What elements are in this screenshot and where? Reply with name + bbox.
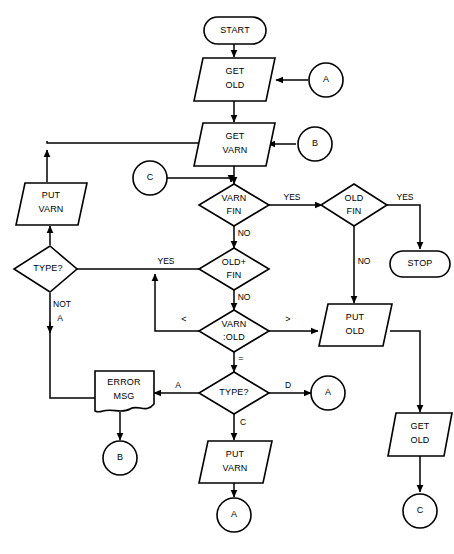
edge-label-old-plus-fin-yes: YES (157, 256, 174, 266)
edge-label-old-plus-fin-no: NO (238, 292, 251, 302)
flowchart-svg: START GET OLD A GET VARN B C (0, 0, 454, 554)
node-type-left-label: TYPE? (33, 263, 63, 273)
node-put-varn-bottom-label-2: VARN (222, 463, 247, 473)
node-error-msg-label-2: MSG (113, 391, 134, 401)
node-connector-b-bottom-label: B (117, 452, 123, 462)
node-put-varn-bottom[interactable]: PUT VARN (199, 441, 272, 483)
node-connector-a-top[interactable]: A (309, 63, 343, 97)
node-put-old[interactable]: PUT OLD (319, 304, 392, 346)
node-get-old-2-label-1: GET (410, 421, 429, 431)
node-old-plus-fin-label-1: OLD+ (222, 257, 247, 267)
edge-label-varn-old-equal: = (238, 353, 243, 363)
node-put-old-label-1: PUT (346, 312, 365, 322)
node-connector-b-right[interactable]: B (298, 127, 332, 161)
node-old-plus-fin[interactable]: OLD+ FIN (199, 248, 269, 290)
edge-label-varn-fin-no: NO (238, 228, 251, 238)
node-get-old-1[interactable]: GET OLD (194, 58, 275, 101)
node-put-varn-bottom-label-1: PUT (226, 449, 245, 459)
node-stop-label: STOP (407, 258, 432, 268)
edge-label-varn-fin-yes: YES (283, 192, 300, 202)
node-get-old-2[interactable]: GET OLD (388, 413, 452, 456)
node-connector-c-left[interactable]: C (133, 161, 167, 195)
node-connector-c-bottom-label: C (417, 505, 424, 515)
node-type-left[interactable]: TYPE? (14, 246, 77, 292)
node-get-old-1-label-2: OLD (225, 80, 244, 90)
edge-label-not-a-line2: A (57, 313, 63, 323)
node-connector-c-bottom[interactable]: C (403, 494, 437, 528)
node-old-fin[interactable]: OLD FIN (321, 184, 387, 226)
edge-old-fin-yes-to-stop (386, 205, 420, 249)
node-varn-old-label-2: :OLD (223, 332, 245, 342)
node-varn-fin-label-1: VARN (221, 193, 246, 203)
node-connector-b-right-label: B (312, 138, 318, 148)
node-connector-a-bottom[interactable]: A (217, 498, 251, 532)
node-error-msg-label-1: ERROR (107, 377, 141, 387)
node-connector-c-left-label: C (147, 172, 154, 182)
node-connector-a-right[interactable]: A (311, 376, 345, 410)
edge-label-type-bottom-d: D (285, 380, 291, 390)
node-start[interactable]: START (204, 17, 266, 44)
node-varn-fin-label-2: FIN (226, 206, 241, 216)
node-old-fin-label-1: OLD (344, 193, 363, 203)
edge-conn-c-to-varn-fin (166, 178, 231, 182)
node-put-varn-left[interactable]: PUT VARN (16, 183, 87, 225)
flowchart-canvas: START GET OLD A GET VARN B C (0, 0, 454, 554)
node-start-label: START (220, 25, 250, 35)
node-old-plus-fin-label-2: FIN (226, 270, 241, 280)
edge-label-type-bottom-a: A (175, 380, 181, 390)
edge-label-old-fin-no: NO (358, 256, 371, 266)
node-put-varn-left-label-2: VARN (38, 204, 63, 214)
edge-label-not-a-line1: NOT (53, 299, 71, 309)
node-varn-fin[interactable]: VARN FIN (199, 184, 269, 226)
edge-label-old-fin-yes: YES (396, 192, 413, 202)
edge-label-type-bottom-c: C (240, 417, 246, 427)
node-type-bottom-label: TYPE? (219, 387, 249, 397)
edge-put-old-to-get-old-2 (390, 331, 420, 412)
node-old-fin-label-2: FIN (346, 206, 361, 216)
node-put-old-label-2: OLD (345, 326, 364, 336)
node-get-varn[interactable]: GET VARN (194, 123, 275, 166)
node-varn-old[interactable]: VARN :OLD (199, 310, 269, 352)
node-get-old-1-label-1: GET (225, 66, 244, 76)
node-error-msg[interactable]: ERROR MSG (95, 371, 154, 412)
edge-varn-old-less-to-yes-line (155, 274, 200, 331)
node-varn-old-label-1: VARN (221, 319, 246, 329)
node-connector-b-bottom[interactable]: B (103, 441, 137, 475)
node-connector-a-bottom-label: A (231, 509, 237, 519)
node-get-varn-label-1: GET (225, 131, 244, 141)
node-put-varn-left-label-1: PUT (42, 190, 61, 200)
node-connector-a-top-label: A (323, 74, 329, 84)
edge-put-varn-to-get-varn (47, 141, 216, 143)
edge-label-varn-old-less: < (181, 314, 186, 324)
edge-label-varn-old-greater: > (285, 314, 290, 324)
node-stop[interactable]: STOP (390, 251, 450, 277)
node-type-bottom[interactable]: TYPE? (199, 372, 269, 414)
node-connector-a-right-label: A (325, 387, 331, 397)
node-get-varn-label-2: VARN (222, 145, 247, 155)
node-get-old-2-label-2: OLD (410, 435, 429, 445)
